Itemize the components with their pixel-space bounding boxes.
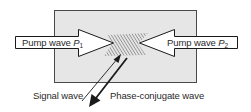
pump-wave-p1-label: Pump wave P1: [22, 37, 83, 49]
pump-p1-var: P: [73, 37, 79, 48]
pump-p2-text: Pump wave: [167, 37, 218, 48]
pump-p2-var: P: [218, 37, 224, 48]
signal-wave-label: Signal wave: [33, 90, 83, 101]
phase-conjugate-wave-label: Phase-conjugate wave: [110, 90, 204, 101]
pump-p1-subscript: 1: [80, 42, 84, 49]
pump-p2-subscript: 2: [225, 42, 229, 49]
pump-wave-p2-label: Pump wave P2: [167, 37, 228, 49]
phase-conjugation-diagram: Pump wave P1 Pump wave P2 Signal wave Ph…: [0, 0, 251, 112]
pump-p1-text: Pump wave: [22, 37, 73, 48]
phase-conjugate-arrowhead-icon: [89, 94, 101, 107]
